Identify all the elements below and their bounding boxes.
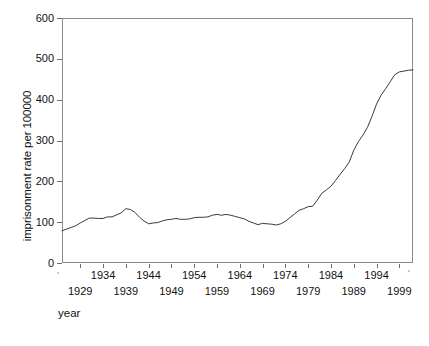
x-tick-mark xyxy=(399,264,400,268)
x-tick-mark xyxy=(285,264,286,268)
x-tick-label: 1934 xyxy=(91,270,115,281)
x-tick-label: 1984 xyxy=(319,270,343,281)
scan-speckle xyxy=(57,272,59,274)
y-tick-label: 200 xyxy=(14,176,54,187)
x-tick-label: 1959 xyxy=(205,286,229,297)
y-tick-label: 100 xyxy=(14,217,54,228)
x-tick-label: 1979 xyxy=(296,286,320,297)
series-line xyxy=(62,70,413,231)
y-tick-label: 500 xyxy=(14,53,54,64)
imprisonment-rate-line-chart: imprisonment rate per 100000 01002003004… xyxy=(0,0,429,346)
y-tick-label: 600 xyxy=(14,13,54,24)
x-tick-label: 1944 xyxy=(136,270,160,281)
series-imprisonment-rate xyxy=(62,18,413,263)
x-tick-mark xyxy=(149,264,150,268)
x-tick-mark xyxy=(308,264,309,268)
x-tick-mark xyxy=(171,264,172,268)
x-tick-mark xyxy=(80,264,81,268)
x-tick-label: 1994 xyxy=(364,270,388,281)
x-tick-label: 1939 xyxy=(114,286,138,297)
y-tick-label: 300 xyxy=(14,135,54,146)
y-tick-label: 0 xyxy=(14,258,54,269)
x-tick-label: 1974 xyxy=(273,270,297,281)
x-tick-label: 1929 xyxy=(68,286,92,297)
x-tick-mark xyxy=(103,264,104,268)
x-tick-label: 1999 xyxy=(387,286,411,297)
x-tick-label: 1989 xyxy=(341,286,365,297)
x-tick-label: 1954 xyxy=(182,270,206,281)
x-tick-mark xyxy=(217,264,218,268)
x-tick-label: 1949 xyxy=(159,286,183,297)
x-tick-mark xyxy=(194,264,195,268)
x-tick-mark xyxy=(126,264,127,268)
y-tick-mark xyxy=(57,263,62,264)
x-tick-mark xyxy=(331,264,332,268)
y-tick-label: 400 xyxy=(14,94,54,105)
y-axis-title: imprisonment rate per 100000 xyxy=(21,56,33,276)
x-tick-mark xyxy=(240,264,241,268)
x-tick-mark xyxy=(263,264,264,268)
x-tick-label: 1964 xyxy=(228,270,252,281)
x-tick-mark xyxy=(354,264,355,268)
x-tick-mark xyxy=(377,264,378,268)
scan-speckle xyxy=(406,293,408,295)
x-axis-title: year xyxy=(58,307,80,319)
scan-speckle xyxy=(408,270,410,272)
x-tick-label: 1969 xyxy=(250,286,274,297)
